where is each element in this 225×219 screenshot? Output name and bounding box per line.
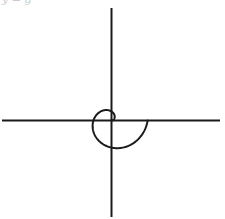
spiral-curve: [93, 110, 148, 148]
polar-spiral-chart: [0, 0, 225, 219]
